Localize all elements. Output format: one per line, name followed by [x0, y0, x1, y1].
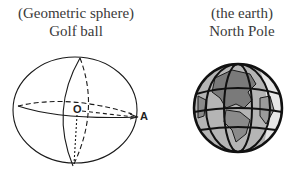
- figures-canvas: O A: [0, 0, 302, 169]
- point-label-a: A: [140, 110, 148, 122]
- axis-dotted: [74, 115, 77, 164]
- earth-globe: [194, 64, 285, 152]
- radius-oa: [82, 111, 134, 117]
- center-label-o: O: [73, 103, 82, 115]
